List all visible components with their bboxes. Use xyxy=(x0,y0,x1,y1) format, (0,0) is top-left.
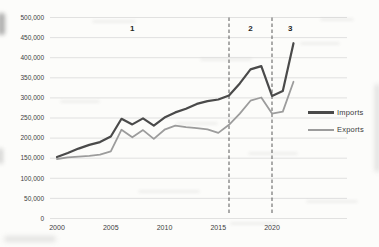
x-tick-label: 2005 xyxy=(103,224,119,231)
x-tick-label: 2015 xyxy=(210,224,226,231)
scanned-trade-chart-page: 050,000100,000150,000200,000250,000300,0… xyxy=(0,0,379,247)
y-tick-label: 300,000 xyxy=(21,94,45,101)
imports-legend-label: Imports xyxy=(337,109,363,117)
legend-item-exports: Exports xyxy=(308,124,364,135)
y-tick-label: 100,000 xyxy=(21,175,45,182)
y-tick-label: 350,000 xyxy=(21,74,45,81)
x-tick-label: 2020 xyxy=(264,224,280,231)
y-tick-label: 250,000 xyxy=(21,114,45,121)
exports-line-swatch xyxy=(308,129,334,131)
legend-item-imports: Imports xyxy=(308,107,364,118)
period-divider-lines xyxy=(229,18,272,216)
imports-line-swatch xyxy=(308,111,334,114)
x-tick-label: 2000 xyxy=(49,224,65,231)
period-number-labels: 123 xyxy=(130,24,293,33)
y-axis-tick-labels: 050,000100,000150,000200,000250,000300,0… xyxy=(21,14,45,222)
gridlines xyxy=(50,18,347,219)
imports-series-line xyxy=(57,43,294,157)
y-tick-label: 150,000 xyxy=(21,154,45,161)
y-tick-label: 400,000 xyxy=(21,54,45,61)
y-tick-label: 0 xyxy=(40,215,44,222)
chart-legend: Imports Exports xyxy=(308,107,364,141)
x-tick-label: 2010 xyxy=(157,224,173,231)
x-axis-tick-labels: 20002005201020152020 xyxy=(49,224,280,231)
y-tick-label: 200,000 xyxy=(21,134,45,141)
period-label-3: 3 xyxy=(288,24,293,33)
y-tick-label: 500,000 xyxy=(21,14,45,21)
exports-legend-label: Exports xyxy=(337,126,364,134)
y-tick-label: 50,000 xyxy=(24,195,44,202)
period-label-2: 2 xyxy=(248,24,253,33)
period-label-1: 1 xyxy=(130,24,135,33)
exports-series-line xyxy=(57,82,294,159)
y-tick-label: 450,000 xyxy=(21,34,45,41)
